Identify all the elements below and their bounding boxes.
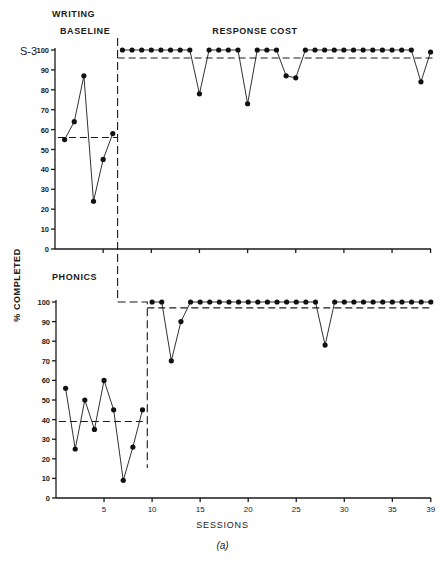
data-point — [284, 73, 289, 78]
y-tick-label: 90 — [41, 66, 49, 75]
data-point — [82, 397, 87, 402]
y-tick-label: 40 — [42, 416, 50, 425]
y-tick-label: 60 — [42, 376, 50, 385]
data-point — [428, 299, 433, 304]
data-point — [226, 47, 231, 52]
y-tick-label: 50 — [42, 396, 50, 405]
data-point — [342, 299, 347, 304]
data-point — [246, 299, 251, 304]
data-series-line — [65, 76, 113, 201]
data-point — [284, 299, 289, 304]
data-point — [371, 299, 376, 304]
data-point — [158, 47, 163, 52]
data-point — [197, 91, 202, 96]
multiple-baseline-chart: WRITING0102030405060708090100BASELINERES… — [0, 0, 445, 566]
y-tick-label: 10 — [41, 225, 49, 234]
data-point — [312, 47, 317, 52]
data-point — [293, 75, 298, 80]
data-point — [351, 299, 356, 304]
data-series-line — [66, 380, 143, 480]
data-point — [101, 157, 106, 162]
y-tick-label: 20 — [42, 455, 50, 464]
data-point — [120, 47, 125, 52]
data-point — [187, 47, 192, 52]
phase-change-line — [118, 38, 148, 468]
data-point — [389, 47, 394, 52]
data-point — [129, 47, 134, 52]
data-point — [274, 299, 279, 304]
x-tick-label: 5 — [102, 505, 107, 514]
data-point — [91, 199, 96, 204]
data-point — [159, 299, 164, 304]
y-tick-label: 0 — [46, 494, 50, 503]
data-point — [206, 47, 211, 52]
data-point — [226, 299, 231, 304]
data-point — [341, 47, 346, 52]
x-tick-label: 30 — [340, 505, 349, 514]
data-point — [399, 47, 404, 52]
data-point — [150, 299, 155, 304]
data-point — [130, 444, 135, 449]
data-point — [313, 299, 318, 304]
y-tick-label: 70 — [42, 357, 50, 366]
x-tick-label: 25 — [292, 505, 301, 514]
data-point — [399, 299, 404, 304]
data-point — [92, 427, 97, 432]
data-point — [188, 299, 193, 304]
data-point — [111, 407, 116, 412]
data-point — [121, 478, 126, 483]
data-point — [390, 299, 395, 304]
x-tick-label: 20 — [244, 505, 253, 514]
data-point — [419, 299, 424, 304]
y-tick-label: 50 — [41, 146, 49, 155]
data-point — [255, 47, 260, 52]
data-point — [303, 47, 308, 52]
y-tick-label: 80 — [41, 86, 49, 95]
data-point — [169, 358, 174, 363]
y-tick-label: 100 — [36, 46, 49, 55]
data-point — [198, 299, 203, 304]
data-point — [149, 47, 154, 52]
x-axis-label: SESSIONS — [0, 520, 445, 530]
y-tick-label: 60 — [41, 126, 49, 135]
data-point — [303, 299, 308, 304]
x-tick-label: 10 — [148, 505, 157, 514]
data-point — [207, 299, 212, 304]
data-point — [264, 47, 269, 52]
data-point — [380, 299, 385, 304]
y-tick-label: 30 — [42, 435, 50, 444]
panel-title: PHONICS — [52, 272, 97, 282]
y-tick-label: 80 — [42, 337, 50, 346]
data-point — [351, 47, 356, 52]
data-point — [178, 47, 183, 52]
data-point — [332, 299, 337, 304]
data-point — [409, 299, 414, 304]
data-point — [255, 299, 260, 304]
chart-canvas: WRITING0102030405060708090100BASELINERES… — [0, 0, 445, 566]
data-point — [72, 119, 77, 124]
data-point — [110, 131, 115, 136]
y-tick-label: 70 — [41, 106, 49, 115]
data-series-line — [152, 302, 431, 361]
data-point — [322, 47, 327, 52]
data-point — [216, 47, 221, 52]
data-point — [235, 47, 240, 52]
y-tick-label: 20 — [41, 205, 49, 214]
phase-label-baseline: BASELINE — [60, 26, 110, 36]
y-tick-label: 30 — [41, 185, 49, 194]
data-point — [63, 386, 68, 391]
data-point — [322, 343, 327, 348]
data-point — [81, 73, 86, 78]
subject-label: S-3 — [20, 45, 37, 57]
panel-title: WRITING — [52, 9, 95, 19]
x-tick-label: 39 — [426, 505, 435, 514]
y-tick-label: 0 — [45, 245, 49, 254]
data-point — [265, 299, 270, 304]
data-point — [217, 299, 222, 304]
data-point — [370, 47, 375, 52]
data-point — [101, 378, 106, 383]
data-point — [62, 137, 67, 142]
data-point — [168, 47, 173, 52]
data-point — [361, 299, 366, 304]
phase-label-treatment: RESPONSE COST — [212, 26, 297, 36]
